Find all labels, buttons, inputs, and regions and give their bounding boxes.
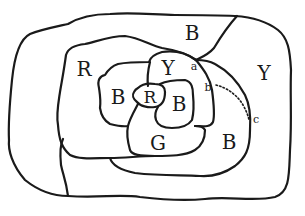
point-label-b: b: [204, 82, 211, 93]
region-label-center-b: B: [172, 94, 187, 114]
region-label-outer-y: Y: [257, 63, 270, 83]
region-label-outer-r: R: [76, 59, 91, 79]
region-label-lower-b: B: [222, 132, 237, 152]
point-label-a: a: [191, 61, 198, 72]
dotted-b-c-line: [216, 85, 249, 120]
region-label-inner-y: Y: [161, 58, 174, 78]
region-label-inner-b-left: B: [111, 87, 126, 107]
region-label-inner-g: G: [150, 133, 166, 153]
map-drawing: [0, 0, 305, 216]
region-label-outer-b: B: [185, 23, 200, 43]
y-b-divider: [148, 62, 150, 86]
divider-b-y: [196, 16, 237, 60]
region-label-center-r: R: [144, 89, 157, 106]
point-label-c: c: [253, 114, 259, 125]
